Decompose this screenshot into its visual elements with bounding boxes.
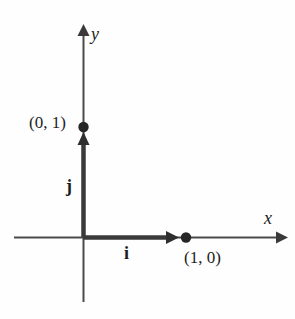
vector-j-label: j — [66, 177, 72, 195]
vector-j-arrowhead-icon — [78, 132, 90, 145]
y-axis-arrowhead-icon — [78, 24, 90, 36]
x-axis-label: x — [264, 209, 272, 227]
point-label-1-0: (1, 0) — [184, 249, 221, 266]
y-axis-label: y — [91, 25, 99, 43]
x-axis-arrowhead-icon — [276, 232, 288, 244]
point-label-0-1: (0, 1) — [29, 114, 66, 131]
vector-i-label: i — [124, 244, 129, 262]
vector-figure: y x j i (0, 1) (1, 0) — [0, 0, 295, 319]
vector-i-arrowhead-icon — [166, 231, 179, 244]
figure-canvas — [0, 0, 295, 319]
point-marker-1-0 — [181, 232, 191, 242]
point-marker-0-1 — [78, 122, 88, 132]
